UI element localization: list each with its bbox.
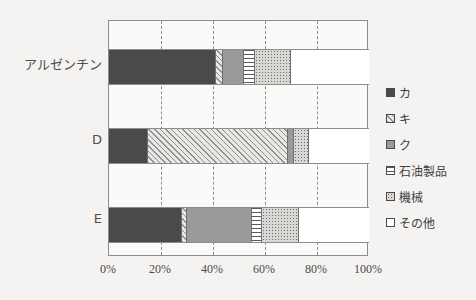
legend-label-ku: ク	[399, 136, 411, 153]
legend-item-sekiyu: 石油製品	[386, 162, 447, 179]
bar-row-e	[109, 207, 369, 243]
category-label-d: D	[0, 132, 102, 147]
legend-item-sonota: その他	[386, 214, 447, 231]
bar-segment-sekiyu	[244, 50, 254, 84]
legend-swatch-kikai-icon	[386, 192, 395, 201]
legend-item-ki: キ	[386, 110, 447, 127]
bar-row-d	[109, 128, 369, 164]
stacked-bar-chart: アルゼンチン D E	[0, 0, 476, 300]
bar-segment-kikai	[262, 208, 298, 242]
bar-segment-sonota	[309, 129, 369, 163]
legend-item-ka: カ	[386, 84, 447, 101]
bar-segment-kikai	[255, 50, 291, 84]
bar-segment-ka	[109, 208, 182, 242]
bar-segment-ki	[148, 129, 288, 163]
legend: カ キ ク 石油製品 機械 その他	[386, 84, 447, 231]
legend-swatch-sekiyu-icon	[386, 166, 395, 175]
bar-segment-sekiyu	[252, 208, 262, 242]
bar-segment-sonota	[291, 50, 369, 84]
legend-label-sonota: その他	[399, 214, 435, 231]
bar-segment-ku	[187, 208, 252, 242]
bar-segment-ka	[109, 129, 148, 163]
bar-segment-ka	[109, 50, 216, 84]
bar-segment-sonota	[299, 208, 369, 242]
xtick-20: 20%	[149, 262, 171, 277]
bar-segment-kikai	[294, 129, 310, 163]
xtick-40: 40%	[201, 262, 223, 277]
legend-item-kikai: 機械	[386, 188, 447, 205]
legend-swatch-sonota-icon	[386, 218, 395, 227]
bar-segment-ku	[223, 50, 244, 84]
xtick-0: 0%	[100, 262, 116, 277]
legend-swatch-ka-icon	[386, 88, 395, 97]
bar-row-argentina	[109, 49, 369, 85]
xtick-100: 100%	[354, 262, 382, 277]
legend-label-ki: キ	[399, 110, 411, 127]
xtick-60: 60%	[253, 262, 275, 277]
legend-label-kikai: 機械	[399, 188, 423, 205]
legend-swatch-ku-icon	[386, 140, 395, 149]
legend-item-ku: ク	[386, 136, 447, 153]
xtick-80: 80%	[305, 262, 327, 277]
legend-label-ka: カ	[399, 84, 411, 101]
legend-label-sekiyu: 石油製品	[399, 162, 447, 179]
legend-swatch-ki-icon	[386, 114, 395, 123]
plot-area	[108, 20, 368, 256]
bar-segment-ki	[216, 50, 224, 84]
category-label-argentina: アルゼンチン	[0, 54, 102, 73]
category-label-e: E	[0, 211, 102, 226]
